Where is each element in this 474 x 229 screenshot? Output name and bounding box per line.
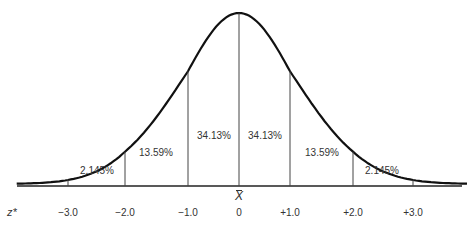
tick-label-pos3: +3.0 (403, 207, 423, 218)
tick-label-pos2: +2.0 (343, 207, 363, 218)
bell-curve (17, 13, 467, 184)
segment-label-0-pos1: 34.13% (248, 130, 282, 141)
segment-label-neg2-neg1: 13.59% (139, 147, 173, 158)
segment-label-neg1-0: 34.13% (197, 130, 231, 141)
z-axis-label: z* (7, 206, 17, 218)
segment-label-pos2-pos3: 2.145% (365, 165, 399, 176)
sd-divider-lines (68, 13, 413, 186)
tick-label-zero: 0 (236, 207, 242, 218)
mean-label: X (235, 189, 243, 203)
tick-label-neg2: −2.0 (115, 207, 135, 218)
segment-label-pos1-pos2: 13.59% (305, 147, 339, 158)
tick-label-neg1: −1.0 (178, 207, 198, 218)
segment-label-neg3-neg2: 2.145% (80, 165, 114, 176)
tick-label-pos1: +1.0 (280, 207, 300, 218)
tick-label-neg3: −3.0 (58, 207, 78, 218)
